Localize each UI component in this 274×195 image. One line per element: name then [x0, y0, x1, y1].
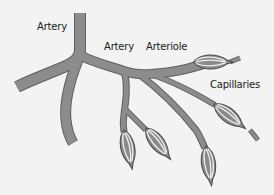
- label-artery-branch: Artery: [104, 42, 134, 52]
- label-arteriole: Arteriole: [146, 42, 187, 52]
- capillary-bed-right: [210, 98, 250, 134]
- capillary-bed-lower-right: [199, 145, 218, 187]
- capillary-bed-lower-middle: [140, 124, 176, 164]
- label-capillaries: Capillaries: [210, 80, 260, 90]
- capillary-bed-top: [193, 55, 233, 69]
- vessel-diagram: Artery Artery Arteriole Capillaries: [0, 0, 274, 195]
- capillary-bed-lower-left: [117, 129, 139, 171]
- label-artery-main: Artery: [37, 22, 67, 32]
